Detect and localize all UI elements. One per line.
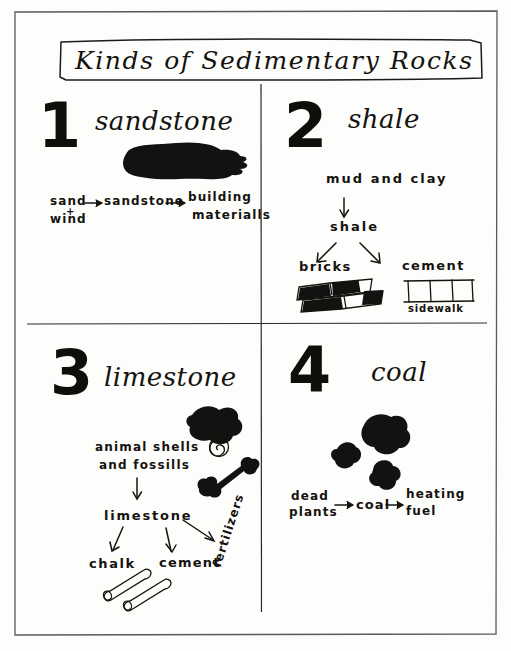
quadrant-3-heading: limestone [104, 362, 237, 392]
q4-result-line1: heating [406, 487, 465, 501]
arrow-to-fertilizers [183, 520, 213, 540]
q4-source-line2: plants [289, 505, 338, 519]
q3-middle: limestone [104, 508, 192, 523]
sandstone-rock-blob [123, 142, 247, 179]
chalk-sticks-drawing [102, 569, 171, 611]
page-border [15, 11, 497, 635]
shale-down-arrow [340, 198, 349, 217]
limestone-branch-arrows [110, 520, 214, 552]
q2-branch-left-label: bricks [299, 259, 352, 274]
coal-lump-large [361, 414, 410, 454]
page-title: Kinds of Sedimentary Rocks [75, 46, 474, 75]
q1-result-line1: building [188, 190, 252, 204]
q2-branch-right-label: cement [402, 258, 465, 273]
shell-rock-blob [186, 406, 242, 444]
q3-source-line1: animal shells [95, 440, 199, 454]
q3-branch-left-label: chalk [89, 556, 136, 571]
arrow-to-cement [360, 243, 379, 262]
q4-result-line2: fuel [406, 504, 436, 518]
arrow-to-cement [166, 528, 171, 551]
quadrant-dividers [27, 84, 487, 612]
q1-middle: sandstone [104, 194, 184, 208]
q2-middle: shale [330, 219, 379, 234]
q1-result-line2: materialls [192, 208, 271, 222]
q2-source: mud and clay [326, 171, 448, 186]
q1-source-line2: wind [50, 212, 87, 226]
worksheet-page: Kinds of Sedimentary Rocks 1 sandstone s… [0, 0, 511, 651]
quadrant-2-heading: shale [348, 104, 420, 134]
snail-shell-spiral [210, 438, 229, 457]
quadrant-2-number: 2 [284, 89, 327, 162]
q4-middle: coal [356, 497, 390, 512]
arrow-to-chalk [113, 527, 123, 550]
quadrant-4-number: 4 [288, 333, 331, 406]
q2-sidewalk-caption: sidewalk [408, 303, 464, 314]
q4-source-line1: dead [291, 489, 329, 503]
quadrant-1-number: 1 [38, 89, 81, 162]
quadrant-1-heading: sandstone [95, 106, 233, 136]
bricks-stack [297, 279, 383, 312]
q3-branch-right-label: fertilizers [210, 492, 247, 569]
coal-lump-small [331, 442, 361, 468]
bone-drawing [198, 457, 260, 498]
coal-lumps [331, 414, 410, 490]
coal-lump-medium [369, 460, 400, 489]
horizontal-divider [27, 323, 487, 324]
q3-source-line2: and fossills [99, 458, 190, 472]
limestone-down-arrow [133, 478, 142, 499]
quadrant-4-heading: coal [371, 357, 427, 387]
vertical-divider [261, 84, 262, 612]
quadrant-3-number: 3 [50, 336, 93, 409]
cement-sidewalk-drawing [404, 280, 474, 302]
